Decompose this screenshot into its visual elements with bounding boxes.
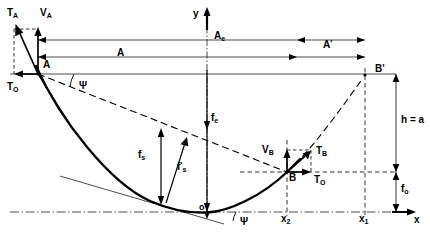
dimension-fe [204,70,210,212]
label-psi-at-A: Ψ [79,81,87,91]
dimension-h-equals-a [393,74,400,172]
label-offset-fo: fo [401,184,409,194]
label-point-B-prime: B' [375,64,385,74]
dimension-fo [393,172,400,212]
label-psi-at-origin: Ψ [240,217,248,227]
label-span-Ae: Ae [214,31,225,41]
tangent-line-at-A [38,74,72,128]
label-sag-fs-prime: f's [177,162,186,172]
label-x2: x2 [281,214,290,224]
label-horizontal-B: TO [314,175,326,185]
point-marker-Bprime [363,73,366,76]
force-vector-TB [287,151,311,173]
label-vertical-A: VA [40,8,52,18]
tangent-line-at-origin [60,176,224,224]
label-height-h: h = a [401,115,424,125]
force-vector-TA [15,24,38,74]
label-sag-fs: fs [138,150,145,160]
angle-arc-psi-origin [233,212,236,221]
label-origin: o [199,203,205,212]
label-x1: x1 [359,214,368,224]
label-vertical-B: VB [262,145,274,155]
point-marker-A [36,72,39,75]
chord-A-to-B [38,74,287,172]
dimension-fs [158,128,164,205]
label-tension-A: TA [7,8,18,18]
label-point-A: A [43,60,50,70]
dimension-line-Ae [38,37,365,43]
label-x-axis: x [414,215,420,225]
catenary-diagram: TA VA TO A Ψ Ae A A' y B' fe fs f's VB [0,0,430,251]
label-span-A: A [117,48,124,58]
angle-arc-psi-A [70,74,74,87]
origin-tick [205,212,210,219]
label-sag-fe: fe [211,113,218,123]
label-tension-B: TB [316,146,327,156]
label-point-B: B [289,173,296,183]
force-vector-TO-at-A [14,70,38,77]
label-span-A-prime: A' [323,40,332,50]
y-axis-arrow [203,7,210,30]
label-horizontal-A: TO [7,82,19,92]
dimension-line-A [38,54,365,60]
catenary-curve [36,66,300,213]
curve-extension-B-to-Bprime [287,78,363,172]
label-y-axis: y [193,9,199,19]
